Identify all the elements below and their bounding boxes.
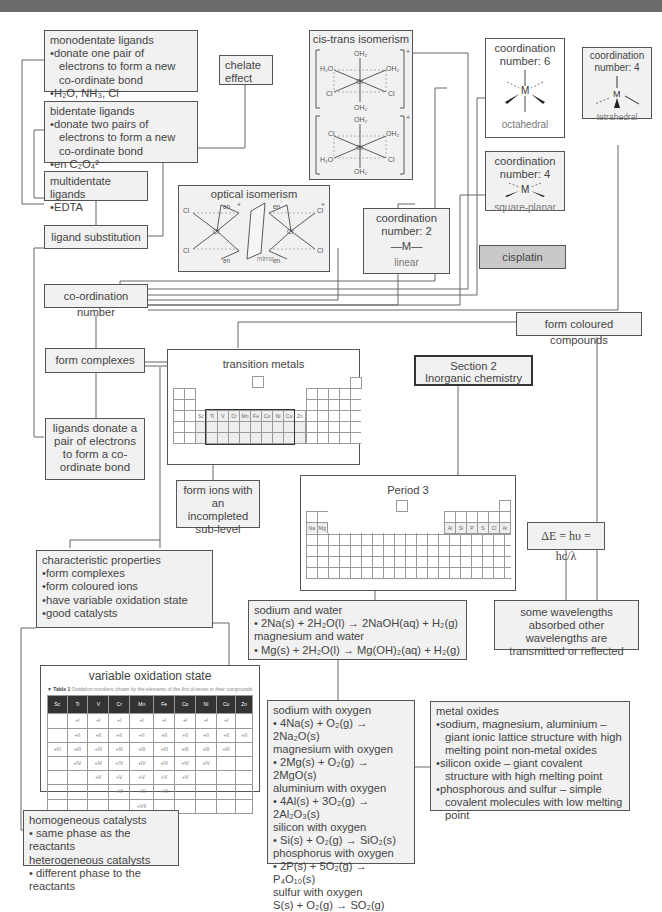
table-cell — [236, 714, 253, 728]
table-cell: +III — [130, 742, 154, 756]
svg-text:Cr: Cr — [213, 228, 221, 235]
table-row: +V+V+V+V+V — [48, 771, 253, 785]
svg-text:Cr: Cr — [356, 78, 364, 85]
multidentate-point: EDTA — [50, 201, 142, 214]
metal-oxides-point: sodium, magnesium, aluminium – giant ion… — [436, 718, 624, 757]
bidentate-point: en C₂O₄²⁻ — [50, 158, 192, 171]
metal-oxides-point: phosphorous and sulfur – simple covalent… — [436, 783, 624, 822]
svg-text:en: en — [223, 257, 231, 264]
table-cell: +VI — [109, 785, 130, 799]
table-cell — [48, 728, 68, 742]
oxygen-line: sodium with oxygen — [273, 704, 409, 717]
table-cell — [236, 785, 253, 799]
svg-text:H₂O: H₂O — [320, 65, 334, 72]
table-cell — [88, 785, 109, 799]
table-caption: ▼ Table 1 Oxidation numbers shown by the… — [47, 686, 253, 692]
sodium-water-line: • 2Na(s) + 2H₂O(l) → 2NaOH(aq) + H₂(g) — [254, 617, 461, 630]
table-cell: +III — [196, 742, 217, 756]
coord4-sq-line1: coordination — [491, 155, 559, 168]
oxygen-line: • 2Mg(s) + O₂(g) → 2MgO(s) — [273, 756, 409, 782]
svg-text:+: + — [321, 201, 325, 208]
metal-oxides-point: silicon oxide – giant covalent structure… — [436, 757, 624, 783]
multidentate-ligands-box: multidentate ligands EDTA — [44, 171, 148, 201]
chelate-label: chelate effect — [225, 59, 267, 85]
svg-text:en: en — [223, 203, 231, 210]
characteristic-title: characteristic properties — [42, 554, 207, 567]
table-cell: +III — [216, 742, 236, 756]
tetrahedral-shape-icon: M — [587, 74, 647, 108]
table-cell — [48, 757, 68, 771]
monodentate-point: donate one pair of electrons to form a n… — [50, 47, 192, 87]
table-cell: +VI — [154, 785, 175, 799]
oxygen-line: magnesium with oxygen — [273, 743, 409, 756]
svg-text:+: + — [406, 114, 410, 121]
ligand-substitution-label: ligand substitution — [51, 231, 141, 243]
table-cell — [236, 757, 253, 771]
table-cell: +II — [88, 728, 109, 742]
svg-text:Cl: Cl — [388, 156, 395, 163]
wavelengths-box: some wavelengths absorbed other waveleng… — [494, 600, 639, 650]
table-cell — [216, 799, 236, 813]
table-cell: +II — [236, 728, 253, 742]
table-cell — [67, 771, 88, 785]
table-row: +III+III+III+III+III+III+III+III+III — [48, 742, 253, 756]
form-coloured-compounds-box: form coloured compounds — [516, 312, 642, 336]
table-cell — [48, 714, 68, 728]
table-cell — [196, 799, 217, 813]
table-cell — [196, 771, 217, 785]
svg-text:OH₂: OH₂ — [354, 168, 368, 175]
catalysts-line: • same phase as the reactants — [29, 827, 173, 853]
coord6-line1: coordination — [491, 42, 559, 55]
variable-oxidation-title: variable oxidation state — [47, 670, 253, 683]
svg-text:M: M — [613, 89, 621, 99]
optical-isomerism-title: optical isomerism — [181, 188, 327, 201]
table-cell: +I — [175, 714, 196, 728]
svg-text:OH₂: OH₂ — [354, 104, 368, 111]
table-cell: +V — [130, 771, 154, 785]
table-cell — [48, 785, 68, 799]
period-3-box: Period 3 Na Mg Al Si P S Cl Ar — [300, 475, 516, 591]
table-cell: +IV — [88, 757, 109, 771]
tetrahedral-label: tetrahedral — [585, 111, 649, 124]
table-cell: +VI — [130, 785, 154, 799]
metal-oxides-title: metal oxides — [436, 705, 624, 718]
coord2-line2: number: 2 — [369, 225, 444, 238]
oxygen-line: • 4Al(s) + 3O₂(g) → 2Al₂O₃(s) — [273, 795, 409, 821]
oxygen-line: • 2P(s) + 5O₂(g) → P₄O₁₀(s) — [273, 860, 409, 886]
catalysts-line: heterogeneous catalysts — [29, 854, 173, 867]
coord2-line1: coordination — [369, 212, 444, 225]
table-cell: +I — [216, 714, 236, 728]
characteristic-properties-box: characteristic properties form complexes… — [36, 550, 213, 628]
svg-text:OH₂: OH₂ — [354, 50, 368, 57]
mirror-label: mirror — [257, 255, 275, 262]
svg-text:M: M — [521, 184, 529, 195]
multidentate-title: multidentate ligands — [50, 175, 142, 201]
svg-text:en: en — [273, 203, 281, 210]
coord4-tet-line1: coordination — [585, 50, 649, 62]
svg-text:en: en — [273, 257, 281, 264]
form-coloured-compounds-label: form coloured compounds — [545, 318, 613, 346]
svg-text:+: + — [406, 48, 410, 55]
table-cell: +I — [196, 714, 217, 728]
ligand-substitution-box: ligand substitution — [44, 225, 148, 249]
table-cell: +II — [130, 728, 154, 742]
oxygen-line: S(s) + O₂(g) → SO₂(g) — [273, 899, 409, 912]
table-cell: +III — [88, 742, 109, 756]
form-complexes-box: form complexes — [45, 348, 145, 373]
octahedral-shape-icon: M — [495, 68, 555, 114]
chelate-effect-box: chelate effect — [219, 55, 273, 85]
co-ordination-number-box: co-ordination number — [44, 284, 148, 308]
linear-shape-icon: —M— — [369, 240, 444, 253]
sodium-and-water-box: sodium and water • 2Na(s) + 2H₂O(l) → 2N… — [248, 600, 467, 660]
table-cell: +II — [154, 728, 175, 742]
cis-trans-title: cis-trans isomerism — [312, 33, 410, 46]
table-cell: +II — [216, 728, 236, 742]
monodentate-title: monodentate ligands — [50, 34, 192, 47]
coord4-sq-line2: number: 4 — [491, 168, 559, 181]
characteristic-point: good catalysts — [42, 607, 207, 620]
table-row: +II+II+II+II+II+II+II+II+II — [48, 728, 253, 742]
bidentate-title: bidentate ligands — [50, 105, 192, 118]
table-cell: +V — [175, 771, 196, 785]
table-row: +IV+IV+IV+IV+IV+IV+IV — [48, 757, 253, 771]
table-cell: +I — [67, 714, 88, 728]
